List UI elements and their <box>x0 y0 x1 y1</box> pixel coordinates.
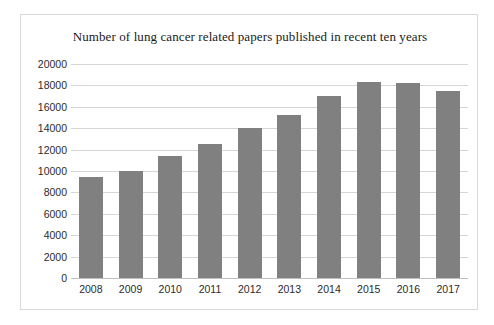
x-tick-label: 2011 <box>190 283 230 295</box>
bar-2009 <box>119 171 143 278</box>
y-tick-label: 8000 <box>21 186 67 198</box>
chart-frame: Number of lung cancer related papers pub… <box>20 14 478 310</box>
y-tick-label: 14000 <box>21 122 67 134</box>
y-tick-label: 0 <box>21 272 67 284</box>
x-tick-label: 2009 <box>111 283 151 295</box>
bar-2014 <box>317 96 341 278</box>
bar-2011 <box>198 144 222 278</box>
bar-2017 <box>436 91 460 278</box>
x-tick-label: 2017 <box>428 283 468 295</box>
y-tick-label: 20000 <box>21 58 67 70</box>
y-tick-label: 16000 <box>21 101 67 113</box>
y-tick-label: 18000 <box>21 79 67 91</box>
gridline <box>71 278 468 279</box>
y-axis: 2000018000160001400012000100008000600040… <box>21 64 67 278</box>
y-tick-label: 2000 <box>21 251 67 263</box>
chart-title: Number of lung cancer related papers pub… <box>21 29 479 45</box>
y-tick-label: 12000 <box>21 144 67 156</box>
y-tick-label: 4000 <box>21 229 67 241</box>
x-tick-label: 2014 <box>309 283 349 295</box>
bar-2013 <box>277 115 301 278</box>
x-tick-label: 2016 <box>388 283 428 295</box>
x-tick-label: 2015 <box>349 283 389 295</box>
plot-area <box>71 64 468 278</box>
bar-2008 <box>79 177 103 278</box>
bar-2016 <box>396 83 420 278</box>
x-tick-label: 2008 <box>71 283 111 295</box>
bar-2012 <box>238 128 262 278</box>
bar-2015 <box>357 82 381 278</box>
x-axis: 2008200920102011201220132014201520162017 <box>71 283 468 303</box>
bar-2010 <box>158 156 182 278</box>
x-tick-label: 2010 <box>150 283 190 295</box>
y-tick-label: 6000 <box>21 208 67 220</box>
x-tick-label: 2012 <box>230 283 270 295</box>
y-tick-label: 10000 <box>21 165 67 177</box>
bar-series <box>71 64 468 278</box>
x-tick-label: 2013 <box>269 283 309 295</box>
